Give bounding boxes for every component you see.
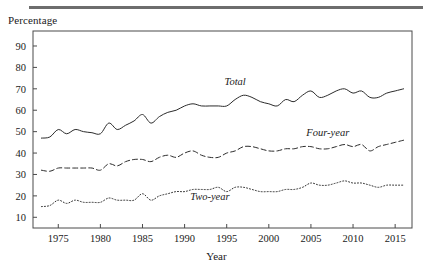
line-chart-plot: 1020304050607080901975198019851990199520…: [0, 0, 433, 271]
x-tick-label-2010: 2010: [343, 233, 364, 244]
y-tick-label-90: 90: [16, 41, 27, 52]
x-tick-label-1975: 1975: [48, 233, 69, 244]
x-tick-label-1985: 1985: [132, 233, 153, 244]
x-tick-label-1995: 1995: [216, 233, 237, 244]
x-tick-label-2000: 2000: [258, 233, 279, 244]
figure-container: Percentage 10203040506070809019751980198…: [0, 0, 433, 271]
y-tick-label-20: 20: [16, 191, 27, 202]
series-label-four-year: Four-year: [305, 127, 350, 138]
y-tick-label-10: 10: [16, 212, 27, 223]
x-tick-label-1990: 1990: [174, 233, 195, 244]
series-label-two-year: Two-year: [190, 191, 230, 202]
y-tick-label-80: 80: [16, 62, 27, 73]
x-tick-label-1980: 1980: [90, 233, 111, 244]
y-tick-label-40: 40: [16, 148, 27, 159]
series-line-four-year: [41, 140, 403, 171]
x-tick-label-2015: 2015: [385, 233, 406, 244]
y-tick-label-70: 70: [16, 84, 27, 95]
y-tick-label-60: 60: [16, 105, 27, 116]
x-axis-title: Year: [0, 250, 433, 263]
y-tick-label-30: 30: [16, 169, 27, 180]
x-tick-label-2005: 2005: [300, 233, 321, 244]
y-tick-label-50: 50: [16, 126, 27, 137]
series-label-total: Total: [225, 76, 246, 87]
